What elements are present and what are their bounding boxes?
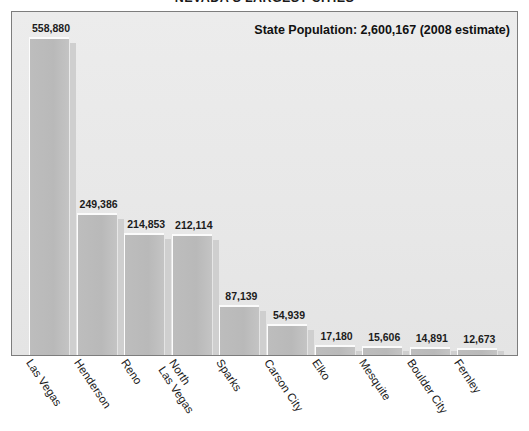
category-label-reno: Reno: [119, 357, 145, 387]
chart-page: NEVADA'S LARGEST CITIES 558,880249,38621…: [0, 0, 529, 431]
category-axis-line: [12, 355, 518, 356]
category-label-line: Las Vegas: [24, 357, 64, 408]
bar-rect: [457, 348, 497, 355]
bar-rect: [267, 324, 307, 355]
bar-elko: 17,180: [315, 343, 362, 355]
category-label-sparks: Sparks: [214, 357, 244, 394]
bar-rect: [124, 233, 164, 355]
bar-rect: [362, 346, 402, 355]
category-label-elko: Elko: [309, 357, 332, 383]
bar-shadow: [165, 239, 171, 355]
bar-rect: [219, 305, 259, 355]
category-label-carson-city: Carson City: [262, 357, 306, 414]
category-label-henderson: Henderson: [71, 357, 113, 411]
category-label-line: Fernley: [452, 357, 483, 396]
bar-value-label: 12,673: [451, 333, 507, 345]
category-label-mesquite: Mesquite: [357, 357, 393, 403]
bar-value-label: 249,386: [71, 198, 127, 210]
bar-las-vegas: 558,880: [29, 35, 76, 355]
bar-north-las-vegas: 212,114: [172, 232, 219, 355]
category-label-line: Mesquite: [357, 357, 393, 402]
bars-layer: 558,880249,386214,853212,11487,13954,939…: [12, 12, 518, 356]
plot-area: 558,880249,386214,853212,11487,13954,939…: [11, 11, 518, 356]
bar-rect: [77, 213, 117, 355]
bar-rect: [410, 347, 450, 355]
bar-mesquite: 15,606: [362, 344, 409, 355]
bar-rect: [29, 37, 69, 355]
bar-henderson: 249,386: [77, 211, 124, 355]
bar-value-label: 54,939: [261, 309, 317, 321]
state-population-annotation: State Population: 2,600,167 (2008 estima…: [254, 23, 510, 37]
category-label-boulder-city: Boulder City: [404, 357, 449, 416]
category-axis-labels: Las VegasHendersonRenoNorthLas VegasSpar…: [11, 357, 518, 431]
bar-reno: 214,853: [124, 231, 171, 355]
category-label-north-las-vegas: NorthLas Vegas: [156, 357, 207, 416]
bar-fernley: 12,673: [457, 346, 504, 355]
bar-rect: [172, 234, 212, 355]
bar-carson-city: 54,939: [267, 322, 314, 355]
bar-shadow: [118, 219, 124, 355]
category-label-line: Boulder City: [405, 357, 450, 416]
category-label-line: Reno: [119, 357, 144, 387]
category-label-line: Sparks: [214, 357, 244, 393]
category-label-line: Carson City: [262, 357, 306, 414]
category-label-fernley: Fernley: [452, 357, 484, 396]
bar-value-label: 558,880: [23, 22, 79, 34]
category-label-line: Elko: [310, 357, 332, 382]
category-label-line: Henderson: [72, 357, 113, 410]
bar-rect: [315, 345, 355, 355]
bar-value-label: 87,139: [213, 290, 269, 302]
bar-value-label: 212,114: [166, 219, 222, 231]
bar-boulder-city: 14,891: [410, 345, 457, 355]
chart-title: NEVADA'S LARGEST CITIES: [0, 0, 529, 5]
bar-sparks: 87,139: [219, 303, 266, 355]
category-label-las-vegas: Las Vegas: [24, 357, 64, 409]
